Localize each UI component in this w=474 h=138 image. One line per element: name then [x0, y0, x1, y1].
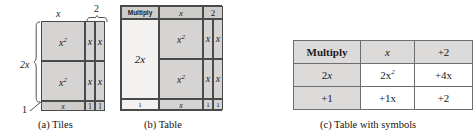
- table-b-x-bottom-right-label: x: [214, 73, 222, 84]
- table-b-block: Multiply x 2 2x x2 x2 x x x: [120, 5, 222, 111]
- symbol-table-cell-plus1x: +1x: [361, 87, 415, 110]
- table-b-header-x: x: [159, 6, 203, 19]
- table-b-x-squared-bottom: x2: [159, 59, 203, 99]
- tile-x-top-right-label: x: [96, 36, 104, 47]
- table-b-bottom-unit-left-label: 1: [204, 101, 212, 109]
- table-b-x-squared-top: x2: [159, 19, 203, 59]
- tile-bottom-unit-left: 1: [85, 101, 95, 111]
- table-b-bottom-unit-right-label: 1: [214, 101, 222, 109]
- table-row: 2x 2x2 +4x: [294, 64, 473, 87]
- symbol-table-header-x: x: [361, 41, 415, 64]
- tile-bottom-x-label: x: [42, 102, 84, 111]
- symbol-table-cell-plus2: +2: [415, 87, 473, 110]
- tile-bottom-x: x: [41, 101, 85, 111]
- tiles-block: x2 x2 x x x x x 1 1: [41, 21, 105, 111]
- tile-x-squared-top: x2: [41, 21, 85, 61]
- table-b-x-squared-bottom-label: x2: [160, 73, 202, 85]
- tile-x-squared-bottom-label: x2: [42, 76, 84, 88]
- tile-x-bottom-right-label: x: [96, 76, 104, 87]
- tiles-left-label-1: 1: [22, 105, 27, 115]
- table-b-rowlabel-1: 1: [121, 99, 159, 110]
- table-b-x-top-right: x: [213, 19, 223, 59]
- tiles-left-brace-icon: [33, 21, 41, 103]
- symbol-table-header-plus2: +2: [415, 41, 473, 64]
- tile-bottom-unit-right-label: 1: [96, 102, 104, 111]
- tiles-top-label-x: x: [56, 9, 60, 19]
- table-b-x-top-right-label: x: [214, 33, 222, 44]
- symbol-table-header-x-label: x: [385, 46, 390, 58]
- tile-x-bottom-left-label: x: [86, 76, 94, 87]
- table-b-bottom-x: x: [159, 99, 203, 110]
- table-b-bottom-unit-left: 1: [203, 99, 213, 110]
- table-b-header-2-label: 2: [211, 8, 216, 18]
- table-b-x-top-left: x: [203, 19, 213, 59]
- caption-b: (b) Table: [144, 119, 182, 130]
- tile-x-top-left-label: x: [86, 36, 94, 47]
- symbol-table-cell-plus4x: +4x: [415, 64, 473, 87]
- table-b-x-bottom-left-label: x: [204, 73, 212, 84]
- table-b-header-multiply: Multiply: [121, 6, 159, 19]
- caption-a: (a) Tiles: [38, 119, 73, 130]
- table-b-x-bottom-right: x: [213, 59, 223, 99]
- table-figure: Multiply x 2 2x x2 x2 x x x: [120, 0, 280, 138]
- table-b-header-x-label: x: [179, 8, 183, 18]
- symbol-table-figure: Multiply x +2 2x 2x2 +4x +1 +1x +2: [290, 0, 474, 138]
- tiles-left-label-2x: 2x: [20, 60, 29, 70]
- symbol-table-cell-2x2: 2x2: [361, 64, 415, 87]
- symbol-table-header-multiply: Multiply: [294, 41, 361, 64]
- table-b-bottom-unit-right: 1: [213, 99, 223, 110]
- table-row: Multiply x +2: [294, 41, 473, 64]
- tiles-figure: x 2 2x 1 x2 x2 x x x: [0, 0, 120, 138]
- table-b-rowlabel-1-label: 1: [122, 101, 158, 109]
- tile-x-squared-bottom: x2: [41, 61, 85, 101]
- table-b-rowlabel-2x-label: 2x: [135, 53, 145, 65]
- symbol-table-rowlabel-plus1: +1: [294, 87, 361, 110]
- table-row: +1 +1x +2: [294, 87, 473, 110]
- symbol-table-rowlabel-2x: 2x: [294, 64, 361, 87]
- tile-x-bottom-right: x: [95, 61, 105, 101]
- tile-bottom-unit-left-label: 1: [86, 102, 94, 111]
- tile-bottom-unit-right: 1: [95, 101, 105, 111]
- table-b-x-top-left-label: x: [204, 33, 212, 44]
- table-b-header-2: 2: [203, 6, 223, 19]
- symbol-table-cell-2x2-label: 2x2: [380, 69, 395, 81]
- table-b-rowlabel-2x: 2x: [121, 19, 159, 99]
- table-b-x-squared-top-label: x2: [160, 33, 202, 45]
- symbol-table-rowlabel-2x-label: 2x: [322, 69, 332, 81]
- tile-x-top-left: x: [85, 21, 95, 61]
- tile-x-top-right: x: [95, 21, 105, 61]
- symbol-table: Multiply x +2 2x 2x2 +4x +1 +1x +2: [293, 40, 473, 110]
- caption-c: (c) Table with symbols: [320, 119, 416, 130]
- tile-x-squared-top-label: x2: [42, 36, 84, 48]
- table-b-x-bottom-left: x: [203, 59, 213, 99]
- table-b-bottom-x-label: x: [160, 101, 202, 110]
- tile-x-bottom-left: x: [85, 61, 95, 101]
- tiles-top-label-2: 2: [94, 4, 99, 14]
